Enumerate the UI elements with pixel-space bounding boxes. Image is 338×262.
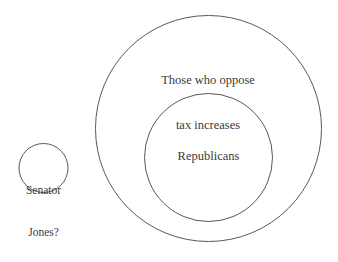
label-republicans: Republicans: [150, 118, 267, 194]
label-senator-line-1: Senator: [10, 183, 77, 197]
label-senator-line-2: Jones?: [10, 225, 77, 239]
label-republicans-line-1: Republicans: [150, 149, 267, 164]
euler-diagram: Those who oppose tax increases Republica…: [0, 0, 338, 262]
label-senator-jones: Senator Jones?: [10, 155, 77, 262]
label-oppose-line-1: Those who oppose: [133, 73, 283, 88]
